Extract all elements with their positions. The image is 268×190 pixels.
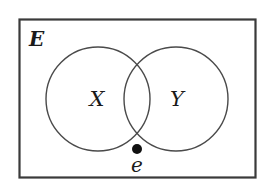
set-x-label: X <box>88 87 106 111</box>
set-y-label: Y <box>170 87 186 111</box>
universe-label: E <box>28 27 45 51</box>
element-label: e <box>131 153 143 177</box>
venn-diagram: E X Y e <box>0 0 268 190</box>
